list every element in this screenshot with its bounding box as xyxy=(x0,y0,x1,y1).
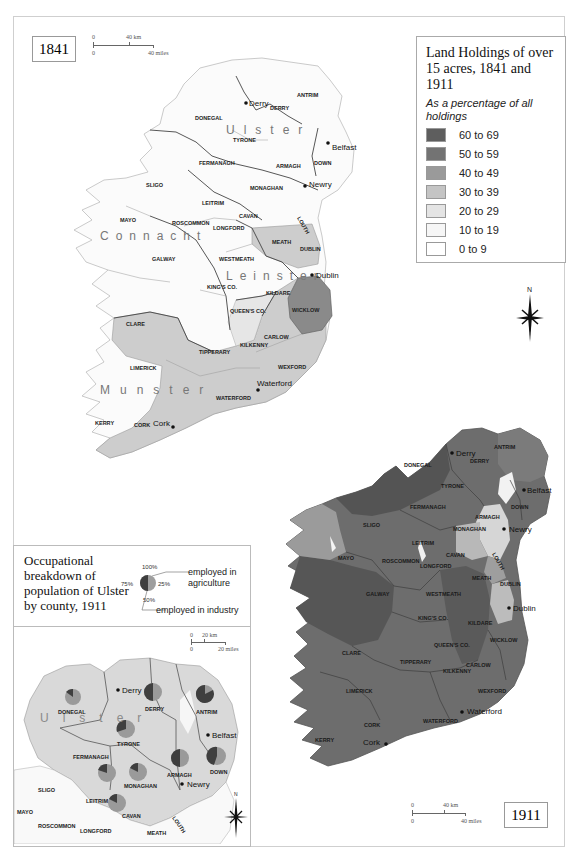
key-75: 75% xyxy=(121,581,134,587)
county-monaghan-1841: MONAGHAN xyxy=(250,185,283,191)
county-wexford-1911: WEXFORD xyxy=(478,688,506,694)
county-kings-1841: KING'S CO. xyxy=(207,284,238,290)
key-agriculture-line1: employed in xyxy=(188,567,237,577)
scale-km-start: 0 xyxy=(190,632,193,638)
county-kildare-1911: KILDARE xyxy=(468,620,493,626)
scale-line xyxy=(93,45,153,46)
scale-mi-start: 0 xyxy=(190,646,193,652)
inset-county-donegal: DONEGAL xyxy=(58,709,86,715)
legend-swatch xyxy=(426,147,446,161)
county-mayo-1841: MAYO xyxy=(120,217,137,223)
legend-swatch xyxy=(426,242,446,256)
county-roscommon-1911: ROSCOMMON xyxy=(382,558,420,564)
scale-mi-start: 0 xyxy=(411,818,414,824)
pie-down xyxy=(206,747,226,765)
legend-item: 50 to 59 xyxy=(426,146,556,161)
county-tyrone-1911: TYRONE xyxy=(441,483,464,489)
county-waterford-1911: WATERFORD xyxy=(423,718,458,724)
scale-km-start: 0 xyxy=(411,802,414,808)
county-donegal-1911: DONEGAL xyxy=(404,462,432,468)
county-armagh-1911: ARMAGH xyxy=(475,514,500,520)
county-antrim-1911: ANTRIM xyxy=(494,444,516,450)
city-waterford-1841: Waterford xyxy=(257,379,292,388)
county-clare-1841: CLARE xyxy=(126,321,145,327)
county-fermanagh-1841: FERMANAGH xyxy=(199,160,235,166)
scale-bar-1911: 0 40 km 0 40 miles xyxy=(411,802,491,828)
ulster-inset-map: Ulster DONEGAL DERRY ANTRIM TYRONE FERMA… xyxy=(14,627,249,844)
county-sligo-1911: SLIGO xyxy=(363,522,381,528)
inset-compass-rose-icon: N xyxy=(222,790,250,842)
legend-item: 40 to 49 xyxy=(426,165,556,180)
inset-city-derry: Derry xyxy=(122,686,142,695)
scale-mi-end: 40 miles xyxy=(148,50,169,56)
county-armagh-1841: ARMAGH xyxy=(276,163,301,169)
inset-county-roscommon: ROSCOMMON xyxy=(38,823,76,829)
province-munster-1841: Munster xyxy=(100,383,213,397)
county-kildare-1841: KILDARE xyxy=(266,290,291,296)
legend-item: 30 to 39 xyxy=(426,184,556,199)
scale-mi-end: 40 miles xyxy=(461,818,482,824)
county-monaghan-1911: MONAGHAN xyxy=(453,526,486,532)
pie-monaghan xyxy=(129,763,147,781)
scale-bar-1841: 0 40 km 0 40 miles xyxy=(92,34,182,60)
legend-items: 60 to 69 50 to 59 40 to 49 30 to 39 20 t… xyxy=(426,127,556,256)
county-leitrim-1911: LEITRIM xyxy=(412,540,434,546)
county-longford-1911: LONGFORD xyxy=(420,563,451,569)
inset-county-monaghan: MONAGHAN xyxy=(124,783,157,789)
county-kilkenny-1911: KILKENNY xyxy=(443,668,471,674)
region-1911-antrim xyxy=(498,428,548,482)
county-tipperary-1911: TIPPERARY xyxy=(400,659,432,665)
scale-km-end: 20 km xyxy=(202,632,217,638)
legend-swatch xyxy=(426,128,446,142)
scale-km-end: 40 km xyxy=(443,802,458,808)
year-label-1911: 1911 xyxy=(504,802,548,828)
legend-item: 10 to 19 xyxy=(426,222,556,237)
county-galway-1911: GALWAY xyxy=(366,591,390,597)
scale-bar-inset: 0 20 km 0 20 miles xyxy=(190,632,250,656)
map-1911: DONEGAL DERRY ANTRIM TYRONE FERMANAGH AR… xyxy=(260,420,560,770)
legend-label: 30 to 39 xyxy=(459,186,499,198)
county-cork-1841: CORK xyxy=(134,422,150,428)
inset-county-sligo: SLIGO xyxy=(38,787,56,793)
county-galway-1841: GALWAY xyxy=(152,256,176,262)
county-waterford-1841: WATERFORD xyxy=(216,395,251,401)
inset-county-cavan: CAVAN xyxy=(122,813,141,819)
legend-panel: Land Holdings of over 15 acres, 1841 and… xyxy=(416,36,566,263)
pie-antrim xyxy=(196,685,214,703)
province-leinster-1841: Leinster xyxy=(226,269,325,283)
province-ulster-1841: Ulster xyxy=(226,123,311,137)
city-waterford-1911: Waterford xyxy=(467,707,502,716)
legend-subtitle: As a percentage of all holdings xyxy=(426,97,556,123)
county-westmeath-1841: WESTMEATH xyxy=(219,256,254,262)
county-queens-1841: QUEEN'S CO. xyxy=(230,308,266,314)
inset-county-tyrone: TYRONE xyxy=(117,741,140,747)
compass-north-label: N xyxy=(527,286,532,293)
county-limerick-1841: LIMERICK xyxy=(130,365,157,371)
inset-compass-north: N xyxy=(234,791,238,797)
key-industry: employed in industry xyxy=(156,605,239,615)
legend-label: 20 to 29 xyxy=(459,205,499,217)
inset-county-derry: DERRY xyxy=(145,706,164,712)
inset-county-fermanagh: FERMANAGH xyxy=(73,754,109,760)
county-leitrim-1841: LEITRIM xyxy=(202,200,224,206)
inset-county-longford: LONGFORD xyxy=(80,828,111,834)
pie-derry xyxy=(144,683,162,701)
city-derry-1841: Derry xyxy=(249,99,269,108)
year-1911-text: 1911 xyxy=(511,807,540,823)
city-cork-1911: Cork xyxy=(363,738,381,747)
county-kerry-1911: KERRY xyxy=(315,737,334,743)
county-meath-1841: MEATH xyxy=(272,239,291,245)
scale-mi-end: 20 miles xyxy=(218,646,239,652)
scale-km-start: 0 xyxy=(92,34,95,40)
county-down-1841: DOWN xyxy=(314,160,331,166)
county-cork-1911: CORK xyxy=(364,722,380,728)
province-connacht-1841: Connacht xyxy=(100,229,207,243)
county-cavan-1911: CAVAN xyxy=(446,552,465,558)
county-roscommon-1841: ROSCOMMON xyxy=(172,220,210,226)
county-cavan-1841: CAVAN xyxy=(239,213,258,219)
pie-cavan xyxy=(108,794,126,812)
county-clare-1911: CLARE xyxy=(342,650,361,656)
county-longford-1841: LONGFORD xyxy=(213,225,244,231)
city-belfast-1841: Belfast xyxy=(332,143,357,152)
city-newry-1841: Newry xyxy=(309,180,332,189)
